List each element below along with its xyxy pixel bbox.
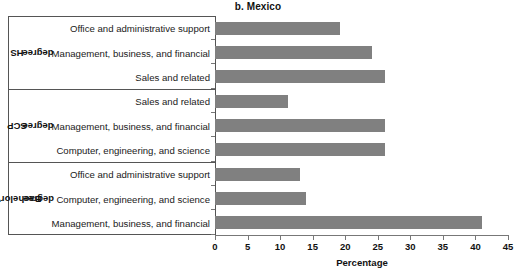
category-label: Computer, engineering, and science <box>56 188 210 212</box>
category-label: Office and administrative support <box>70 17 210 41</box>
y-tick-mark <box>211 209 215 210</box>
x-tick-label: 25 <box>372 241 383 252</box>
group-block-scp: SCP degree Sales and related Management,… <box>8 89 216 162</box>
bar <box>215 143 385 156</box>
x-tick-label: 20 <box>340 241 351 252</box>
bar <box>215 168 300 181</box>
y-tick-mark <box>211 39 215 40</box>
group-axis-label-scp: SCP degree <box>13 90 43 162</box>
group-label-hs-line2: degree <box>23 48 54 59</box>
bar <box>215 216 482 229</box>
chart-title: b. Mexico <box>0 1 516 12</box>
x-tick-mark <box>313 236 314 240</box>
group-block-hs: HS degree Office and administrative supp… <box>8 16 216 89</box>
group-axis-label-hs: HS degree <box>13 17 43 89</box>
x-tick-mark <box>378 236 379 240</box>
category-label: Management, business, and financial <box>52 42 210 66</box>
x-tick-mark <box>248 236 249 240</box>
bar <box>215 192 306 205</box>
x-tick-label: 35 <box>438 241 449 252</box>
category-label: Sales and related <box>135 90 210 114</box>
y-tick-mark <box>211 63 215 64</box>
x-tick-mark <box>443 236 444 240</box>
x-axis-title: Percentage <box>215 257 509 268</box>
x-tick-label: 40 <box>470 241 481 252</box>
x-tick-mark <box>280 236 281 240</box>
x-tick-label: 15 <box>307 241 318 252</box>
category-label: Sales and related <box>135 66 210 90</box>
category-label-panel: HS degree Office and administrative supp… <box>8 16 216 235</box>
y-tick-mark <box>211 161 215 162</box>
y-tick-mark <box>211 88 215 89</box>
x-tick-label: 30 <box>405 241 416 252</box>
bars-layer <box>215 16 510 235</box>
bar <box>215 70 385 83</box>
x-tick-label: 0 <box>212 241 217 252</box>
group-axis-label-bachelors: Bachelor's degree <box>13 163 43 234</box>
category-label: Computer, engineering, and science <box>56 139 210 163</box>
x-tick-label: 45 <box>503 241 514 252</box>
x-tick-label: 5 <box>245 241 250 252</box>
bar <box>215 95 288 108</box>
x-tick-mark <box>410 236 411 240</box>
bar <box>215 46 372 59</box>
x-tick-mark <box>215 236 216 240</box>
y-tick-mark <box>211 112 215 113</box>
category-label: Office and administrative support <box>70 163 210 187</box>
y-tick-mark <box>211 136 215 137</box>
group-block-bachelors: Bachelor's degree Office and administrat… <box>8 162 216 235</box>
category-label: Management, business, and financial <box>52 212 210 236</box>
chart-figure: b. Mexico HS degree Office and administr… <box>0 0 516 273</box>
x-axis-line <box>215 235 509 236</box>
y-tick-mark <box>211 234 215 235</box>
x-tick-mark <box>508 236 509 240</box>
group-label-scp-line2: degree <box>23 121 54 132</box>
y-tick-mark <box>211 185 215 186</box>
bar <box>215 22 340 35</box>
bar <box>215 119 385 132</box>
x-tick-mark <box>475 236 476 240</box>
category-label: Management, business, and financial <box>52 115 210 139</box>
x-tick-label: 10 <box>275 241 286 252</box>
x-tick-mark <box>345 236 346 240</box>
